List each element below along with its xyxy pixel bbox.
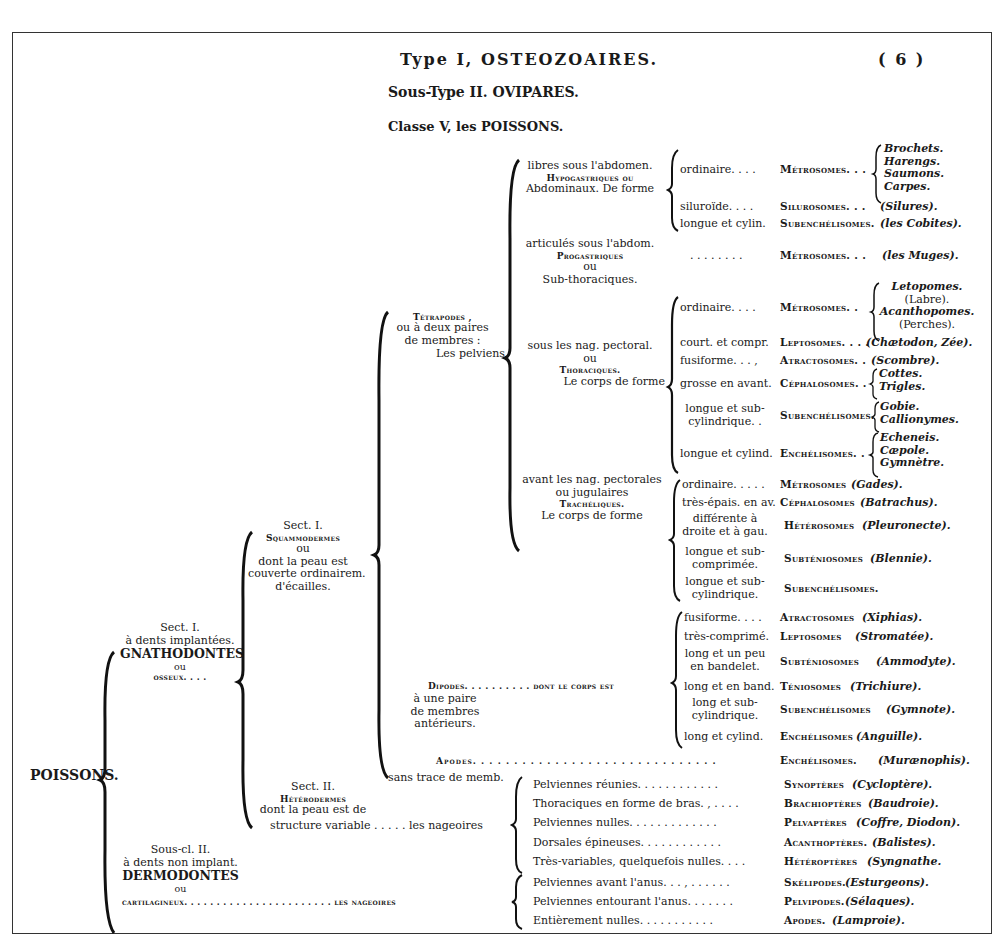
sect-1-desc-2: couverte ordinairem. xyxy=(248,568,358,581)
dipodes-form-2-line-1: long et un peu xyxy=(680,648,770,661)
example-esturgeons: (Esturgeons). xyxy=(845,877,929,888)
example-balistes: (Balistes). xyxy=(872,837,936,848)
thoraciques-form-label: Le corps de forme xyxy=(515,376,665,389)
example-ammodyte: (Ammodyte). xyxy=(876,656,956,667)
subclass-2-group: Sous-cl. II. à dents non implant. DERMOD… xyxy=(118,844,243,895)
apodes-label: Apodes. . . . . . . . . . . . . . . . . … xyxy=(436,755,717,766)
sect-1-desc-3: d'écailles. xyxy=(248,581,358,594)
subclass-2-ou: ou xyxy=(118,884,243,895)
example-batrachus: (Batrachus). xyxy=(860,497,938,508)
example-syngnathe: (Syngnathe. xyxy=(867,856,941,867)
example-letopomes: Letopomes. xyxy=(878,281,976,294)
abdominaux-form-label: Abdominaux. De forme xyxy=(515,183,665,196)
example-selaques: (Sélaques). xyxy=(845,896,914,907)
thoraciques-group: sous les nag. pectoral. ou Thoraciques. … xyxy=(515,340,665,388)
thoraciques-examples-3: Cottes. Trigles. xyxy=(879,368,925,393)
jugulaires-form-4: longue et sub- cylindrique. xyxy=(680,576,770,601)
heterodermes-row-3-label: Dorsales épineuses. . . . . . . . . . . … xyxy=(533,837,721,848)
subthoraciques-alt: Sub-thoraciques. xyxy=(515,274,665,287)
dipodes-form-4-line-2: cylindrique. xyxy=(680,710,770,723)
subclass-1-sect: Sect. I. xyxy=(120,622,240,635)
thoraciques-form-3: grosse en avant. xyxy=(680,378,772,389)
example-perches: (Perches). xyxy=(878,319,976,332)
heterodermes-row-4-label: Très-variables, quelquefois nulles. . . … xyxy=(533,856,745,867)
class-title: Classe V, les POISSONS. xyxy=(388,120,563,133)
dipodes-form-2-line-2: en bandelet. xyxy=(680,661,770,674)
dipodes-family-4: Subenchélisomes xyxy=(780,704,871,715)
subclass-2-sect: Sous-cl. II. xyxy=(118,844,243,857)
subclass-1-alt: osseux. . . . xyxy=(120,673,240,683)
tetrapodes-pelviens: Les pelviens xyxy=(380,348,505,361)
subtype-title: Sous-Type II. OVIPARES. xyxy=(388,85,579,99)
subclass-1-group: Sect. I. à dents implantées. GNATHODONTE… xyxy=(120,622,240,682)
sect-1-title: Sect. I. xyxy=(248,520,358,533)
example-trichiure: (Trichiure). xyxy=(850,681,921,692)
thoraciques-examples-brace-4 xyxy=(872,401,880,433)
jugulaires-form-2-line-2: droite et à gau. xyxy=(680,526,770,539)
heterodermes-row-0-family: Synoptères xyxy=(784,779,844,790)
subclass-2-cartilagineux: cartilagineux. . . . . . . . . . . . . .… xyxy=(122,898,396,907)
abdominaux-form-longue: longue et cylin. xyxy=(680,218,766,229)
thoraciques-examples-brace-5 xyxy=(870,432,880,478)
sect-1-group: Sect. I. Squammodermes ou dont la peau e… xyxy=(248,520,358,594)
dipodes-desc-3: antérieurs. xyxy=(400,718,490,731)
subthoraciques-group: articulés sous l'abdom. Progastriques ou… xyxy=(515,238,665,286)
abdominaux-examples-brace xyxy=(873,143,883,205)
thoraciques-form-4-line-2: cylindrique. . xyxy=(680,416,770,429)
jugulaires-form-1: très-épais. en av. xyxy=(682,497,776,508)
thoraciques-form-4: longue et sub- cylindrique. . xyxy=(680,403,770,428)
apodes-name: Apodes. . . . . . . . . . . . . . . . . … xyxy=(436,756,717,766)
dipodes-desc: à une paire de membres antérieurs. xyxy=(400,693,490,731)
example-echeneis: Echeneis. xyxy=(880,432,944,445)
dipodes-family-2: Subténiosomes xyxy=(780,656,859,667)
dermodontes-row-0-family: Skélipodes. xyxy=(784,877,846,888)
dipodes-form-3: long et en band. xyxy=(684,681,775,692)
dipodes-family-3: Téniosomes xyxy=(780,681,841,692)
jugulaires-desc: avant les nag. pectorales xyxy=(512,474,672,487)
example-stromatee: (Stromatée). xyxy=(855,631,933,642)
example-cycloptere: (Cycloptère). xyxy=(852,779,932,790)
example-muraenophis: (Murænophis). xyxy=(878,755,970,766)
abdominaux-desc: libres sous l'abdomen. xyxy=(515,160,665,173)
sect-2-desc: dont la peau est de xyxy=(258,804,368,817)
dermodontes-row-0-label: Pelviennes avant l'anus. . . , . . . . .… xyxy=(533,877,730,888)
example-cobites: (les Cobites). xyxy=(880,218,962,229)
example-scombre: (Scombre). xyxy=(871,355,939,366)
thoraciques-family-0: Métrosomes. . xyxy=(780,302,858,313)
example-muges: (les Muges). xyxy=(882,250,959,261)
thoraciques-examples-5: Echeneis. Cæpole. Gymnètre. xyxy=(880,432,944,470)
jugulaires-ou: ou jugulaires xyxy=(512,487,672,500)
dipodes-form-1: très-comprimé. xyxy=(684,631,769,642)
abdominaux-family-metrosomes: Métrosomes. . . xyxy=(780,164,866,175)
jugulaires-form-2-line-1: différente à xyxy=(680,513,770,526)
jugulaires-family-3: Subténiosomes xyxy=(784,553,863,564)
jugulaires-family-4: Subenchélisomes. xyxy=(784,583,879,594)
example-chaetodon: (Chætodon, Zée). xyxy=(866,337,972,348)
example-coffre-diodon: (Coffre, Diodon). xyxy=(856,817,960,828)
apodes-family: Enchélisomes. xyxy=(780,755,857,766)
heterodermes-row-2-family: Pelvaptères xyxy=(784,817,847,828)
subclass-1-name: GNATHODONTES xyxy=(120,647,240,661)
heterodermes-brace xyxy=(512,775,526,875)
example-trigles: Trigles. xyxy=(879,381,925,394)
sect-2-title: Sect. II. xyxy=(258,781,368,794)
thoraciques-form-1: court. et compr. xyxy=(680,337,769,348)
thoraciques-family-2: Atractosomes. . xyxy=(780,355,866,366)
sect-1-ou: ou xyxy=(248,543,358,556)
abdominaux-family-silurosomes: Silurosomes. . . xyxy=(780,201,866,212)
thoraciques-family-5: Enchélisomes. . xyxy=(780,448,865,459)
dermodontes-row-1-label: Pelviennes entourant l'anus. . . . . . . xyxy=(533,896,733,907)
jugulaires-form-3-line-1: longue et sub- xyxy=(680,546,770,559)
abdominaux-group: libres sous l'abdomen. Hypogastriques ou… xyxy=(515,160,665,196)
thoraciques-examples-brace-3 xyxy=(870,368,878,400)
example-anguille: (Anguille). xyxy=(856,731,922,742)
dipodes-family-0: Atractosomes xyxy=(780,612,854,623)
jugulaires-form-0: ordinaire. . . . . xyxy=(682,479,765,490)
jugulaires-form-label: Le corps de forme xyxy=(512,510,672,523)
thoraciques-form-4-line-1: longue et sub- xyxy=(680,403,770,416)
heterodermes-row-3-family: Acanthoptères. xyxy=(784,837,867,848)
root-brace xyxy=(100,650,120,935)
heterodermes-row-1-family: Brachioptères xyxy=(784,798,862,809)
example-carpes: Carpes. xyxy=(884,181,944,194)
subthoraciques-ou: ou xyxy=(515,261,665,274)
